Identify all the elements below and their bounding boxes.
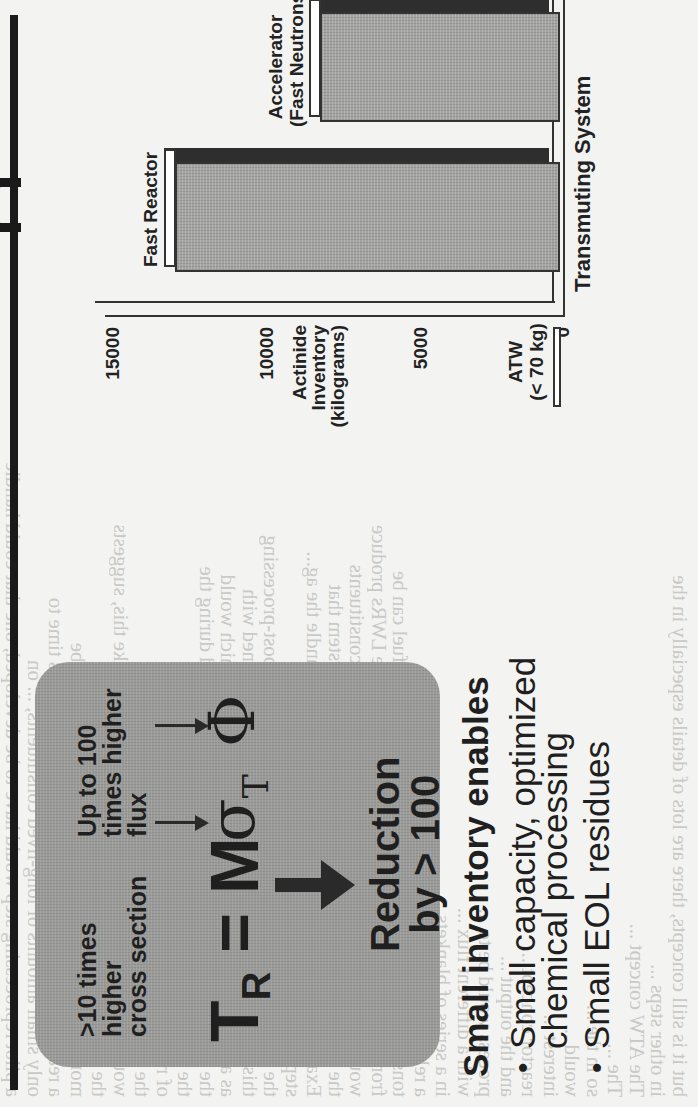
phi-glyph: Φ bbox=[195, 695, 269, 747]
rotated-slide: >10 times higher cross section Up to 100… bbox=[0, 0, 698, 1107]
bar-fast-reactor-side bbox=[164, 148, 549, 162]
list-item-text: Small capacity, optimized chemical proce… bbox=[503, 657, 574, 1049]
heading-letter-fragment bbox=[0, 178, 21, 232]
reduction-note: Reduction by > 100 bbox=[365, 756, 445, 952]
y-axis-title-line: Inventory bbox=[309, 325, 328, 435]
benefits-list: Small inventory enables • Small capacity… bbox=[455, 637, 613, 1077]
transmutation-formula: TR = M bbox=[200, 837, 276, 1042]
page-margin-rule bbox=[10, 15, 18, 1090]
list-item: • Small EOL residues bbox=[581, 637, 613, 1077]
bar-fast-reactor bbox=[175, 162, 560, 272]
flux-note: Up to 100 times higher flux bbox=[75, 688, 150, 837]
sigma-glyph: σ bbox=[195, 798, 269, 842]
formula-sigma: σT bbox=[195, 774, 276, 842]
y-tick-15000: 15000 bbox=[102, 327, 124, 380]
y-axis-line bbox=[105, 315, 565, 317]
formula-t-sub: R bbox=[234, 972, 278, 1001]
formula-t: T bbox=[196, 1000, 272, 1042]
bar-fast-reactor-top bbox=[164, 149, 176, 267]
bar-label-line: ATW bbox=[505, 317, 526, 407]
back-wall bbox=[95, 301, 555, 303]
bullet-icon: • bbox=[581, 1062, 613, 1073]
bar-label-accelerator: Accelerator (Fast Neutrons) bbox=[265, 7, 307, 127]
bar-label-atw: ATW (< 70 kg) bbox=[505, 317, 547, 407]
cross-section-note: >10 times higher cross section bbox=[75, 876, 150, 1037]
y-tick-10000: 10000 bbox=[256, 327, 278, 380]
bar-accelerator bbox=[320, 12, 560, 122]
y-axis-title: Actinide Inventory (kilograms) bbox=[290, 325, 347, 435]
list-item: • Small capacity, optimized chemical pro… bbox=[507, 637, 571, 1077]
bar-atw bbox=[553, 327, 561, 407]
bar-label-line: (Fast Neutrons) bbox=[286, 7, 307, 127]
list-item-text: Small EOL residues bbox=[577, 741, 616, 1049]
y-axis-title-line: Actinide bbox=[290, 325, 309, 435]
x-axis-title: Transmuting System bbox=[570, 76, 596, 292]
reduction-arrow-icon bbox=[275, 878, 325, 892]
bar-accelerator-side bbox=[309, 0, 549, 12]
formula-phi: Φ bbox=[195, 695, 269, 747]
bar-front bbox=[175, 162, 560, 272]
bar-accelerator-top bbox=[309, 0, 321, 117]
x-axis-line bbox=[563, 0, 565, 317]
bar-label-line: (< 70 kg) bbox=[526, 317, 547, 407]
arrow-to-sigma-icon bbox=[155, 821, 197, 824]
formula-box: >10 times higher cross section Up to 100… bbox=[35, 662, 440, 1067]
y-axis-title-line: (kilograms) bbox=[328, 325, 347, 435]
formula-equals: = bbox=[196, 913, 272, 953]
y-tick-5000: 5000 bbox=[410, 327, 432, 369]
formula-m: M bbox=[196, 837, 272, 894]
arrow-to-phi-icon bbox=[155, 724, 197, 727]
bar-label-line: Accelerator bbox=[265, 7, 286, 127]
actinide-inventory-chart: Actinide Inventory (kilograms) 15000 100… bbox=[60, 7, 600, 427]
bar-front bbox=[320, 12, 560, 122]
bullet-icon: • bbox=[507, 1062, 539, 1073]
benefits-heading: Small inventory enables bbox=[455, 637, 497, 1077]
sigma-sub: T bbox=[235, 774, 276, 798]
bar-label-fast-reactor: Fast Reactor bbox=[140, 157, 161, 267]
